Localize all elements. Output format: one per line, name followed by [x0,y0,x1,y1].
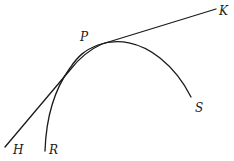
label-h: H [12,143,24,157]
label-r: R [48,143,58,157]
tangent-diagram: P K H R S [0,0,234,161]
curve-rps [45,42,191,151]
label-k: K [218,4,229,18]
label-p: P [79,30,89,44]
label-s: S [195,101,203,115]
tangent-line-hk [5,9,216,147]
